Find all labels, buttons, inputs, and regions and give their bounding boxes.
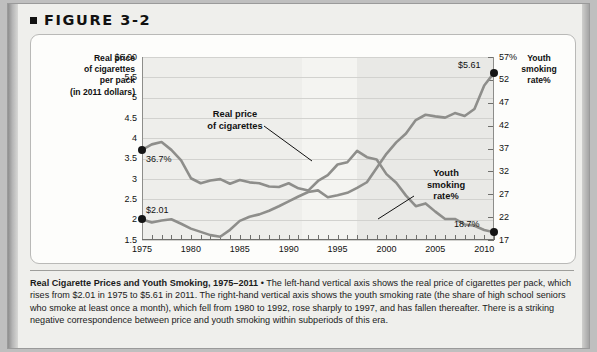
price-end-value-label: $5.61	[458, 60, 481, 70]
right-axis-tick-label: 27	[499, 190, 539, 199]
youth-end-value-label: 18.7%	[454, 219, 480, 229]
left-axis-tick-label: 5.5	[93, 73, 137, 82]
figure-header: FIGURE 3-2	[30, 12, 151, 28]
page-left-gutter	[8, 4, 18, 348]
left-axis-tick-label: 1.5	[93, 236, 137, 245]
price-series-annotation: Real price of cigarettes	[191, 109, 279, 132]
x-axis-tick-label: 2010	[467, 245, 501, 254]
right-axis-tick-label: 47	[499, 98, 539, 107]
right-axis-tick-label: 32	[499, 167, 539, 176]
left-axis-tick-label: 4	[93, 134, 137, 143]
left-axis-tick-label: 3	[93, 175, 137, 184]
caption-title: Real Cigarette Prices and Youth Smoking,…	[30, 278, 258, 288]
page-paper: FIGURE 3-2 Real price of cigarettes per …	[8, 4, 589, 348]
right-axis-tick-label: 42	[499, 121, 539, 130]
square-bullet-icon	[30, 17, 37, 24]
youth-annotation-line-1: Youth	[415, 168, 477, 180]
price-end-marker	[490, 69, 498, 77]
youth-start-value-label: 36.7%	[146, 154, 172, 164]
figure-page: FIGURE 3-2 Real price of cigarettes per …	[0, 0, 597, 352]
right-axis-tick-label: 17	[499, 236, 539, 245]
price-series-line	[142, 73, 494, 237]
right-axis-title-line-2: smoking	[509, 64, 569, 75]
youth-annotation-line-2: smoking	[415, 180, 477, 192]
caption-divider	[30, 270, 574, 271]
youth-series-annotation: Youth smoking rate%	[415, 168, 477, 203]
chart-card: Real price of cigarettes per pack (in 20…	[30, 34, 576, 264]
right-axis-tick-label: 37	[499, 144, 539, 153]
left-axis-tick-label: $6.00	[93, 53, 137, 62]
price-annotation-line-2: of cigarettes	[191, 121, 279, 133]
x-axis-tick-label: 1985	[223, 245, 257, 254]
right-axis-tick	[488, 240, 494, 241]
youth-end-marker	[490, 228, 498, 236]
x-axis-tick-label: 1975	[125, 245, 159, 254]
plot-area	[142, 57, 494, 240]
caption-text: Real Cigarette Prices and Youth Smoking,…	[30, 277, 574, 327]
right-axis-tick-label: 52	[499, 75, 539, 84]
left-axis-tick-label: 3.5	[93, 154, 137, 163]
price-start-value-label: $2.01	[146, 205, 169, 215]
youth-annotation-line-3: rate%	[415, 191, 477, 203]
left-axis-tick-label: 2.5	[93, 195, 137, 204]
caption-block: Real Cigarette Prices and Youth Smoking,…	[30, 270, 574, 327]
x-axis-tick-label: 2000	[369, 245, 403, 254]
x-axis-tick-label: 1980	[174, 245, 208, 254]
figure-label: FIGURE 3-2	[44, 12, 151, 28]
x-axis-tick-label: 1995	[321, 245, 355, 254]
price-annotation-line-1: Real price	[191, 109, 279, 121]
caption-separator: •	[258, 278, 266, 288]
x-axis-tick-label: 1990	[272, 245, 306, 254]
left-axis-tick-label: 5	[93, 93, 137, 102]
left-axis-tick-label: 2	[93, 215, 137, 224]
youth-start-marker	[138, 146, 146, 154]
right-axis-tick-label: 57%	[499, 53, 539, 62]
left-axis-tick-label: 4.5	[93, 114, 137, 123]
gridline	[142, 240, 494, 241]
right-axis-tick-label: 22	[499, 213, 539, 222]
series-curves	[142, 57, 494, 240]
x-axis-tick-label: 2005	[418, 245, 452, 254]
page-right-gutter	[582, 4, 589, 348]
